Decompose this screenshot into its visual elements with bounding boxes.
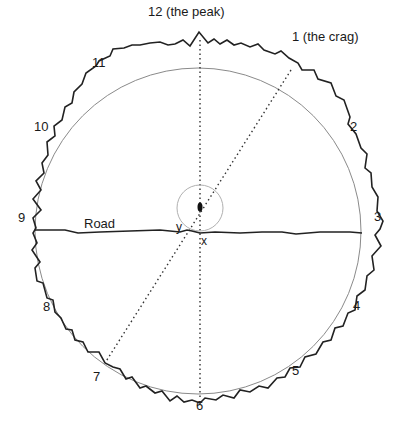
crag-sightline <box>105 70 291 363</box>
hour-label-10: 10 <box>34 120 48 133</box>
hour-label-9: 9 <box>18 211 25 224</box>
hour-label-4: 4 <box>353 299 360 312</box>
hour-label-3: 3 <box>374 210 381 223</box>
hour-label-12: 12 (the peak) <box>148 5 225 18</box>
horizon-diagram <box>0 0 399 423</box>
point-label-x: x <box>201 235 207 247</box>
hour-label-11: 11 <box>92 56 106 69</box>
hour-label-6: 6 <box>196 399 203 412</box>
observer-marker <box>198 203 203 212</box>
road-label: Road <box>84 217 115 230</box>
hour-label-7: 7 <box>93 370 100 383</box>
hour-label-8: 8 <box>43 300 50 313</box>
hour-label-5: 5 <box>292 364 299 377</box>
hour-label-2: 2 <box>350 120 357 133</box>
point-label-y: y <box>176 221 182 233</box>
hour-label-1: 1 (the crag) <box>292 30 358 43</box>
